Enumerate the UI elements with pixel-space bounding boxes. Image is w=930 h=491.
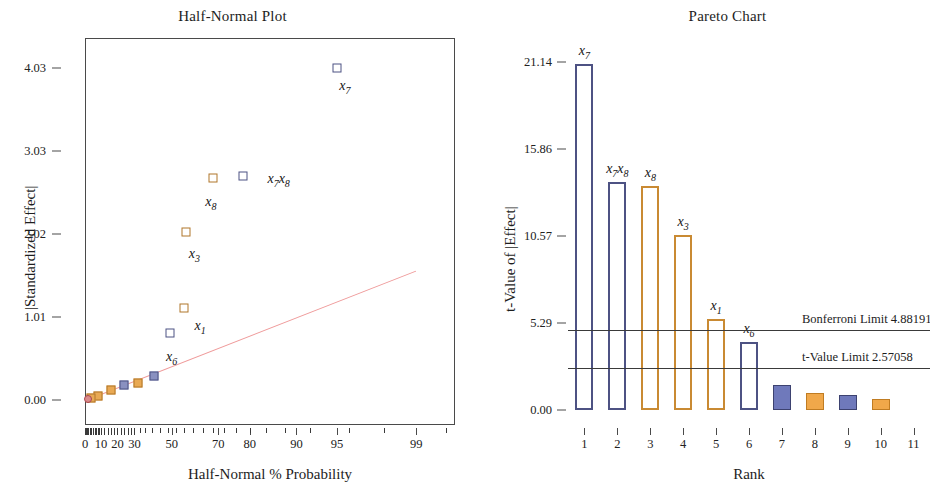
data-point xyxy=(238,171,247,180)
limit-line-label: Bonferroni Limit 4.88191 xyxy=(802,312,930,327)
x-axis-minor-tick xyxy=(193,428,194,433)
x-axis-minor-tick xyxy=(145,428,146,433)
pareto-bar-label: x7 xyxy=(579,43,590,61)
x-axis-minor-tick xyxy=(349,428,350,433)
x-axis-tick-label: 70 xyxy=(212,437,225,452)
y-axis-tick-mark xyxy=(557,148,566,149)
pareto-bar xyxy=(773,385,791,411)
pareto-bar xyxy=(839,395,857,411)
limit-line-label: t-Value Limit 2.57058 xyxy=(802,350,913,365)
x-axis-minor-tick xyxy=(285,428,286,433)
x-axis-tick-label: 10 xyxy=(874,437,887,452)
x-axis-tick-mark xyxy=(584,428,585,435)
x-axis-minor-tick xyxy=(184,428,185,433)
x-axis-minor-tick xyxy=(131,428,132,435)
x-axis-minor-tick xyxy=(236,428,237,433)
x-axis-minor-tick xyxy=(160,428,161,433)
x-axis-tick-label: 4 xyxy=(680,437,686,452)
y-axis-tick-mark xyxy=(52,68,61,69)
y-axis-tick-label: 4.03 xyxy=(0,61,46,76)
x-axis-minor-tick xyxy=(124,428,125,435)
x-axis-tick-mark xyxy=(172,428,173,435)
pareto-bar xyxy=(641,186,659,410)
pareto-bar-label: x7x8 xyxy=(606,161,628,179)
x-axis-minor-tick xyxy=(108,428,109,435)
x-axis-tick-mark xyxy=(296,428,297,435)
x-axis-tick-mark xyxy=(881,428,882,435)
x-axis-tick-mark xyxy=(337,428,338,435)
x-axis-minor-tick xyxy=(203,428,204,433)
pareto-bar xyxy=(740,342,758,410)
data-point xyxy=(165,328,174,337)
x-axis-tick-mark xyxy=(716,428,717,435)
y-axis-tick-mark xyxy=(52,150,61,151)
data-point xyxy=(84,395,92,403)
data-point xyxy=(208,173,217,182)
data-point-label: x7x8 xyxy=(267,171,289,189)
x-axis-tick-mark xyxy=(848,428,849,435)
x-axis-minor-tick xyxy=(140,428,141,433)
x-axis-tick-label: 9 xyxy=(845,437,851,452)
half-normal-x-axis-title: Half-Normal % Probability xyxy=(188,466,352,483)
x-axis-tick-label: 50 xyxy=(165,437,178,452)
pareto-y-axis-title: t-Value of |Effect| xyxy=(502,206,519,312)
half-normal-title: Half-Normal Plot xyxy=(0,8,465,25)
limit-line xyxy=(568,368,930,369)
pareto-bar xyxy=(872,399,890,410)
y-axis-tick-label: 0.00 xyxy=(0,393,46,408)
y-axis-tick-mark xyxy=(557,323,566,324)
pareto-bar xyxy=(674,235,692,410)
x-axis-tick-label: 90 xyxy=(290,437,303,452)
x-axis-minor-tick xyxy=(446,428,447,433)
x-axis-minor-tick xyxy=(384,428,385,433)
pareto-x-axis-title: Rank xyxy=(733,466,765,483)
x-axis-tick-mark xyxy=(914,428,915,435)
x-axis-tick-label: 8 xyxy=(812,437,818,452)
x-axis-tick-label: 1 xyxy=(581,437,587,452)
x-axis-tick-mark xyxy=(416,428,417,435)
x-axis-minor-tick xyxy=(176,428,177,433)
y-axis-tick-mark xyxy=(52,317,61,318)
x-axis-minor-tick xyxy=(310,428,311,433)
pareto-bar-label: x1 xyxy=(710,298,721,316)
pareto-bar-label: x8 xyxy=(645,165,656,183)
pareto-bar xyxy=(575,64,593,411)
x-axis-tick-label: 0 xyxy=(82,437,88,452)
x-axis-minor-tick xyxy=(121,428,122,435)
x-axis-tick-label: 6 xyxy=(746,437,752,452)
x-axis-tick-label: 99 xyxy=(410,437,423,452)
y-axis-tick-mark xyxy=(557,236,566,237)
y-axis-tick-mark xyxy=(557,410,566,411)
half-normal-y-axis-title: |Standardized Effect| xyxy=(22,185,39,309)
data-point xyxy=(120,381,129,390)
x-axis-minor-tick xyxy=(101,428,102,435)
half-normal-plot-area xyxy=(85,38,455,425)
data-point xyxy=(180,304,189,313)
data-point xyxy=(182,227,191,236)
x-axis-tick-mark xyxy=(749,428,750,435)
x-axis-minor-tick xyxy=(266,428,267,433)
x-axis-minor-tick xyxy=(250,428,251,433)
x-axis-tick-label: 7 xyxy=(779,437,785,452)
x-axis-tick-label: 20 xyxy=(111,437,124,452)
pareto-bar xyxy=(806,393,824,410)
x-axis-tick-label: 5 xyxy=(713,437,719,452)
x-axis-minor-tick xyxy=(104,428,105,435)
x-axis-tick-label: 3 xyxy=(647,437,653,452)
x-axis-minor-tick xyxy=(134,428,135,435)
pareto-title: Pareto Chart xyxy=(465,8,930,25)
data-point xyxy=(150,371,159,380)
x-axis-tick-label: 95 xyxy=(331,437,344,452)
x-axis-minor-tick xyxy=(114,428,115,435)
x-axis-tick-mark xyxy=(650,428,651,435)
x-axis-tick-label: 10 xyxy=(95,437,108,452)
pareto-bar xyxy=(707,319,725,410)
data-point xyxy=(133,379,142,388)
x-axis-tick-mark xyxy=(782,428,783,435)
x-axis-minor-tick xyxy=(168,428,169,433)
data-point-label: x8 xyxy=(205,194,216,212)
y-axis-tick-label: 3.03 xyxy=(0,143,46,158)
y-axis-tick-mark xyxy=(52,233,61,234)
x-axis-tick-label: 80 xyxy=(243,437,256,452)
y-axis-tick-mark xyxy=(52,400,61,401)
